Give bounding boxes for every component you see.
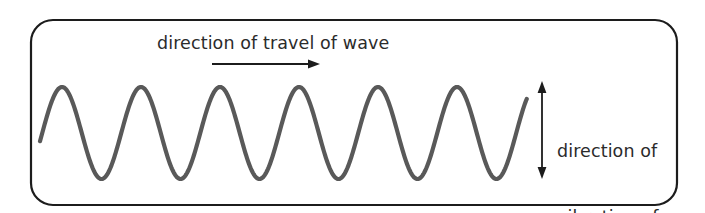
vibration-label-line-1: direction of [557, 140, 658, 162]
vibration-label-line-2: vibration of [557, 206, 658, 213]
direction-of-vibration-label: direction of vibration of particles [557, 96, 658, 213]
transverse-wave-diagram: direction of travel of wave direction of… [0, 0, 705, 213]
direction-of-travel-label: direction of travel of wave [157, 32, 389, 54]
